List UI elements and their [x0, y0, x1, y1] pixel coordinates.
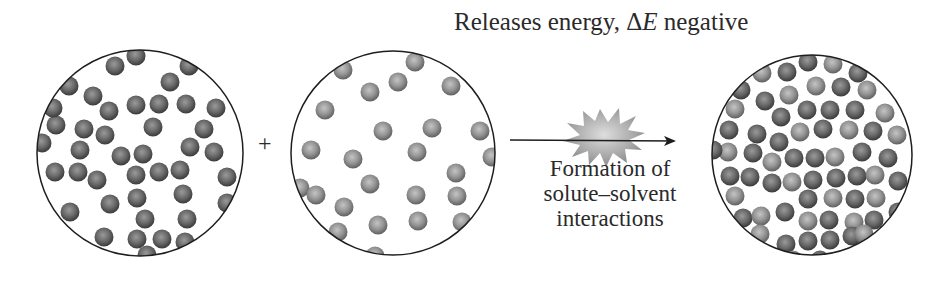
solute-particle — [720, 121, 739, 140]
solute-particle — [150, 163, 169, 182]
solvent-particle — [408, 143, 427, 162]
solute-particle — [821, 101, 840, 120]
process-line-1: Formation of — [520, 156, 700, 181]
solute-particle — [820, 211, 839, 230]
delta-symbol: Δ — [626, 8, 642, 35]
solute-particle — [33, 134, 52, 153]
solvent-particle — [888, 126, 907, 145]
solvent-particle — [344, 150, 363, 169]
solvent-particle — [826, 148, 845, 167]
reaction-arrow — [510, 140, 674, 141]
solute-particle — [134, 145, 153, 164]
solvent-particle — [307, 186, 326, 205]
solute-particle — [748, 125, 767, 144]
solute-particle — [88, 171, 107, 190]
solute-particle — [150, 95, 169, 114]
solute-particle — [770, 133, 789, 152]
solute-particle — [194, 45, 213, 64]
solute-particle — [171, 161, 190, 180]
solute-particle — [195, 120, 214, 139]
solute-particle — [778, 63, 797, 82]
energy-symbol: E — [642, 8, 657, 35]
solute-particle — [218, 168, 237, 187]
solvent-particle — [866, 166, 885, 185]
solute-particle — [853, 143, 872, 162]
solute-particle — [732, 81, 751, 100]
solute-particle — [205, 143, 224, 162]
solvent-particle — [824, 189, 843, 208]
solvent-particle — [447, 164, 466, 183]
solute-particle — [832, 78, 851, 97]
solvent-particle — [791, 123, 810, 142]
solute-particle — [207, 99, 226, 118]
plus-operator: + — [258, 130, 272, 157]
solvent-particle — [335, 198, 354, 217]
solute-particle — [174, 185, 193, 204]
solute-particle — [96, 126, 115, 145]
solute-particle — [69, 163, 88, 182]
solute-particle — [763, 174, 782, 193]
solute-particle — [84, 87, 103, 106]
solute-particle — [128, 189, 147, 208]
solvent-particle — [867, 189, 886, 208]
solvent-particle — [858, 81, 877, 100]
solute-particle — [756, 92, 775, 111]
solute-particle — [153, 230, 172, 249]
solvent-particle — [448, 187, 467, 206]
solute-particle — [178, 210, 197, 229]
solvent-particle — [840, 121, 859, 140]
solvent-particle — [763, 153, 782, 172]
solute-particle — [161, 73, 180, 92]
solute-particle — [785, 149, 804, 168]
solute-particle — [47, 116, 66, 135]
solute-particle — [101, 195, 120, 214]
solute-particle — [75, 120, 94, 139]
solute-particle — [95, 228, 114, 247]
solute-particle — [46, 163, 65, 182]
solute-particle — [889, 172, 908, 191]
solvent-particle — [483, 148, 502, 167]
solvent-particle — [726, 187, 745, 206]
solvent-particle — [316, 101, 335, 120]
solvent-particle — [389, 73, 408, 92]
solute-particle — [806, 149, 825, 168]
solute-particle — [177, 95, 196, 114]
solute-particle — [864, 122, 883, 141]
solute-particle — [127, 96, 146, 115]
heading-suffix: negative — [658, 8, 749, 35]
solvent-particle — [407, 186, 426, 205]
solute-particle — [144, 118, 163, 137]
solvent-particle — [369, 216, 388, 235]
solute-particle — [776, 203, 795, 222]
solute-particle — [61, 203, 80, 222]
solute-particle — [181, 138, 200, 157]
energy-release-heading: Releases energy, ΔE negative — [454, 8, 748, 36]
solute-particle — [799, 232, 818, 251]
solute-particle — [846, 101, 865, 120]
solute-particle — [814, 120, 833, 139]
solute-particle — [31, 197, 50, 216]
solute-particle — [879, 149, 898, 168]
solute-particle — [848, 167, 867, 186]
solute-particle — [127, 166, 146, 185]
process-line-2: solute–solvent — [520, 181, 700, 206]
solute-particle — [71, 141, 90, 160]
solute-particle — [128, 230, 147, 249]
solvent-particle — [409, 212, 428, 231]
solute-particle — [100, 102, 119, 121]
process-caption: Formation of solute–solvent interactions — [520, 156, 700, 231]
solvent-particle — [726, 100, 745, 119]
solvent-particle — [302, 141, 321, 160]
solution-mixture-panel — [704, 53, 908, 270]
solvent-particle — [423, 119, 442, 138]
solute-particle — [106, 57, 125, 76]
heading-prefix: Releases energy, — [454, 8, 626, 35]
solute-particle — [799, 190, 818, 209]
solvent-particle — [366, 247, 385, 266]
solute-particle — [804, 171, 823, 190]
solvent-particle — [783, 173, 802, 192]
solute-particle — [721, 167, 740, 186]
solvent-particle — [471, 122, 490, 141]
solute-particle — [741, 168, 760, 187]
solvent-particle — [807, 77, 826, 96]
